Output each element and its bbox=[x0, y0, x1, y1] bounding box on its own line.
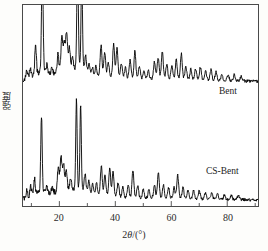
x-axis-tick-label: 20 bbox=[54, 212, 64, 223]
xrd-trace-cs-bent bbox=[23, 99, 258, 202]
xrd-figure: 强度 Bent CS-Bent 20406080 2θ/(°) bbox=[0, 0, 268, 251]
x-axis-title: 2θ/(°) bbox=[0, 229, 268, 240]
x-axis-tick-label: 60 bbox=[167, 212, 177, 223]
x-axis-tick-label: 40 bbox=[110, 212, 120, 223]
plot-area: Bent CS-Bent bbox=[22, 4, 259, 207]
x-axis-title-suffix: /(°) bbox=[132, 229, 145, 240]
series-label-cs-bent: CS-Bent bbox=[206, 166, 239, 176]
series-label-bent: Bent bbox=[219, 86, 237, 96]
y-axis-title: 强度 bbox=[1, 92, 17, 110]
x-axis-tick-label: 80 bbox=[223, 212, 233, 223]
xrd-trace-bent bbox=[23, 5, 258, 83]
